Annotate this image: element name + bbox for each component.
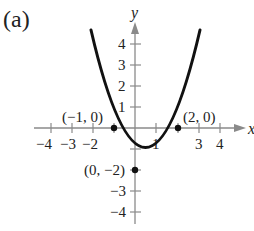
x-tick-label: 4 bbox=[216, 136, 224, 152]
y-tick-label: −3 bbox=[110, 183, 126, 199]
point-label: (0, −2) bbox=[84, 162, 125, 179]
panel-label: (a) bbox=[3, 6, 30, 32]
x-tick-label: −2 bbox=[82, 136, 98, 152]
y-tick-label: 2 bbox=[118, 78, 126, 94]
point-label: (−1, 0) bbox=[62, 109, 103, 126]
parabola-curve bbox=[91, 30, 200, 148]
point-0-neg2 bbox=[132, 167, 138, 173]
y-axis-label: y bbox=[129, 4, 139, 22]
x-tick-label: 3 bbox=[195, 136, 203, 152]
point-2-0 bbox=[175, 125, 181, 131]
point-label: (2, 0) bbox=[183, 109, 216, 126]
y-axis-arrow-icon bbox=[131, 22, 139, 34]
y-tick-label: 4 bbox=[118, 36, 126, 52]
x-axis-label: x bbox=[247, 120, 254, 137]
y-tick-label: −4 bbox=[110, 204, 126, 220]
y-tick-label: 3 bbox=[118, 57, 126, 73]
x-tick-label: −3 bbox=[60, 136, 76, 152]
x-axis-arrow-icon bbox=[234, 124, 246, 132]
x-tick-label: −4 bbox=[36, 136, 52, 152]
y-tick-label: 1 bbox=[118, 99, 126, 115]
point-neg1-0 bbox=[111, 125, 117, 131]
parabola-chart: (a) x y −4 −3 −2 1 3 4 4 3 2 1 −3 −4 bbox=[0, 0, 254, 231]
